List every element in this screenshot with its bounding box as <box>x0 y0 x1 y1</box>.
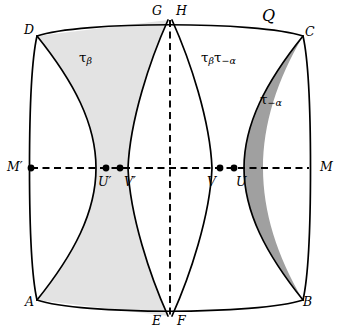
tau-subscript-middle-b: −α <box>221 55 235 66</box>
vertex-label-B: B <box>303 296 312 309</box>
vertex-label-E: E <box>152 315 161 328</box>
point-U-prime <box>103 165 110 172</box>
vertex-label-G: G <box>152 5 162 18</box>
axis-label-M: M <box>320 161 333 174</box>
region-label-tau-beta-tau-minus-alpha: τβτ−α <box>201 51 236 66</box>
region-label-tau-beta: τβ <box>79 51 92 66</box>
vertex-label-D: D <box>24 24 34 37</box>
tau-subscript-left: β <box>86 55 92 66</box>
tau-subscript-right: −α <box>267 97 281 108</box>
axis-label-U: U <box>236 176 247 189</box>
axis-label-V-prime: V′ <box>124 176 136 189</box>
vertex-label-C: C <box>305 26 315 39</box>
point-V <box>217 165 224 172</box>
vertex-label-Q: Q <box>262 8 275 24</box>
geometry-diagram <box>0 0 338 333</box>
edge-right-CB <box>303 36 311 300</box>
point-U <box>231 165 238 172</box>
axis-label-V: V <box>207 176 216 189</box>
figure-canvas: D G H Q C A E F B M′ U′ V′ V U M τβ τβτ−… <box>0 0 338 333</box>
axis-label-M-prime: M′ <box>7 161 23 174</box>
vertex-label-A: A <box>25 296 34 309</box>
vertex-label-F: F <box>177 315 186 328</box>
vertex-label-H: H <box>176 5 187 18</box>
point-M-prime <box>28 165 35 172</box>
region-label-tau-minus-alpha: τ−α <box>260 93 282 108</box>
point-V-prime <box>117 165 124 172</box>
axis-label-U-prime: U′ <box>98 176 111 189</box>
